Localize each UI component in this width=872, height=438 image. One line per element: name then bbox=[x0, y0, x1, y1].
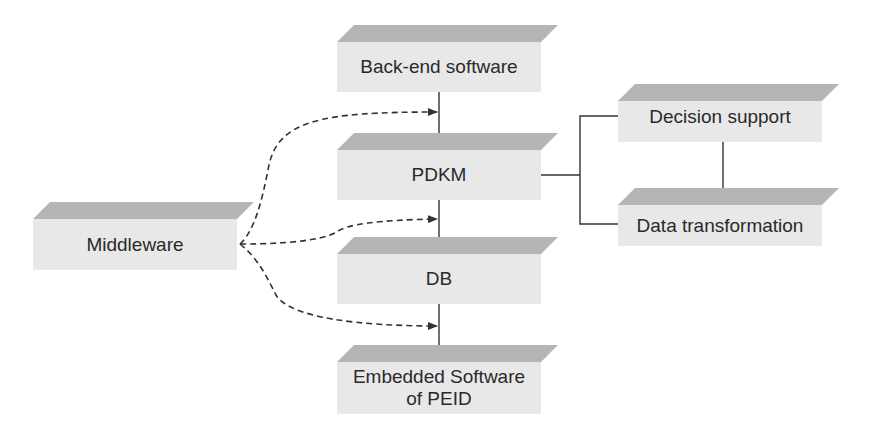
node-middleware: Middleware bbox=[33, 202, 254, 270]
node-label: DB bbox=[337, 254, 541, 304]
box-top-face bbox=[337, 133, 558, 150]
node-label: Middleware bbox=[33, 219, 237, 270]
node-embedded-software: Embedded Software of PEID bbox=[337, 345, 558, 414]
box-top-face bbox=[33, 202, 254, 219]
node-label: Back-end software bbox=[337, 42, 541, 92]
box-top-face bbox=[618, 84, 839, 101]
box-top-face bbox=[337, 25, 558, 42]
node-data-transformation: Data transformation bbox=[618, 188, 839, 246]
node-db: DB bbox=[337, 237, 558, 304]
box-top-face bbox=[618, 188, 839, 205]
node-label: Embedded Software of PEID bbox=[337, 362, 541, 414]
node-decision-support: Decision support bbox=[618, 84, 839, 142]
node-label: Decision support bbox=[618, 101, 822, 142]
node-pdkm: PDKM bbox=[337, 133, 558, 200]
box-top-face bbox=[337, 237, 558, 254]
node-backend-software: Back-end software bbox=[337, 25, 558, 92]
node-label: Data transformation bbox=[618, 205, 822, 246]
node-label: PDKM bbox=[337, 150, 541, 200]
box-top-face bbox=[337, 345, 558, 362]
